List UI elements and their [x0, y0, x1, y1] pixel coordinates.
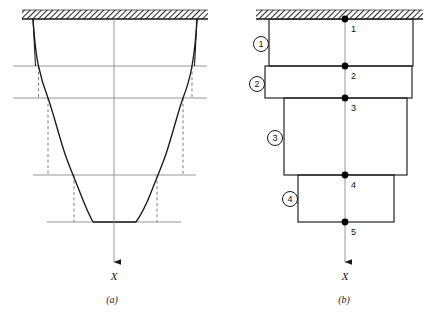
element-number-3: 3 — [268, 131, 283, 146]
panel-b-caption: (b) — [338, 294, 350, 306]
node-2: 2 — [342, 63, 356, 81]
element-number-2: 2 — [250, 77, 265, 92]
element-number-4: 4 — [283, 192, 298, 207]
panel-a-step-solid-top — [33, 19, 197, 66]
node-5-label: 5 — [351, 227, 356, 237]
element-number-1: 1 — [254, 37, 269, 52]
panel-a-group: X (a) — [13, 10, 208, 306]
node-5: 5 — [342, 219, 356, 237]
node-3: 3 — [342, 95, 356, 113]
element-number-1-label: 1 — [258, 39, 263, 49]
node-3-label: 3 — [351, 103, 356, 113]
panel-a-caption: (a) — [106, 294, 118, 306]
element-number-4-label: 4 — [287, 194, 292, 204]
stepped-element-2 — [265, 66, 412, 98]
tapered-profile-right-curve — [136, 19, 197, 222]
node-1-label: 1 — [351, 24, 356, 34]
node-4-label: 4 — [351, 180, 356, 190]
stepped-element-3 — [284, 98, 407, 175]
panel-a-reference-gridlines — [13, 66, 207, 222]
node-4: 4 — [342, 172, 356, 190]
stepped-element-4 — [298, 175, 394, 222]
element-number-3-label: 3 — [272, 133, 277, 143]
x-axis-label-a: X — [110, 270, 119, 282]
engineering-figure-svg: X (a) — [0, 0, 439, 319]
panel-b-group: X 1 2 3 4 1 — [250, 10, 424, 306]
figure-container: X (a) — [0, 0, 439, 319]
stepped-element-1 — [269, 19, 413, 66]
tapered-profile-left-curve — [33, 19, 93, 222]
x-axis-label-b: X — [341, 270, 350, 282]
node-2-label: 2 — [351, 71, 356, 81]
element-number-2-label: 2 — [254, 79, 259, 89]
fixed-support-b — [256, 10, 423, 19]
fixed-support-a — [22, 10, 208, 19]
panel-a-step-dashed-left — [39, 66, 75, 222]
